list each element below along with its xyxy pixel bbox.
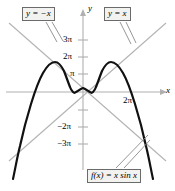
y-tick-label-2pi: 2π <box>63 51 72 61</box>
leader-line-negative-x-2 <box>46 22 57 42</box>
function-graph-figure: y x 3π 2π π −2π −3π 2π y = −x y = x f(x)… <box>0 0 175 191</box>
leader-line-fx-2 <box>124 140 150 168</box>
plot-canvas <box>0 0 175 191</box>
leader-line-negative-x <box>52 22 63 41</box>
y-tick-label-3pi: 3π <box>63 34 72 44</box>
y-tick-label-neg-3pi: −3π <box>57 138 71 148</box>
leader-line-positive-x-2 <box>126 22 136 43</box>
y-axis-arrow <box>80 9 86 16</box>
callout-line-positive-x: y = x <box>104 7 131 21</box>
leader-line-positive-x <box>120 22 131 44</box>
y-tick-label-pi: π <box>70 68 75 78</box>
x-axis-label: x <box>166 85 170 95</box>
y-tick-label-neg-2pi: −2π <box>57 121 71 131</box>
callout-line-negative-x: y = −x <box>22 7 55 21</box>
y-axis-label: y <box>88 3 92 13</box>
callout-function-definition: f(x) = x sin x <box>87 169 141 183</box>
x-tick-label-2pi: 2π <box>123 95 132 105</box>
leader-line-fx <box>116 135 148 168</box>
